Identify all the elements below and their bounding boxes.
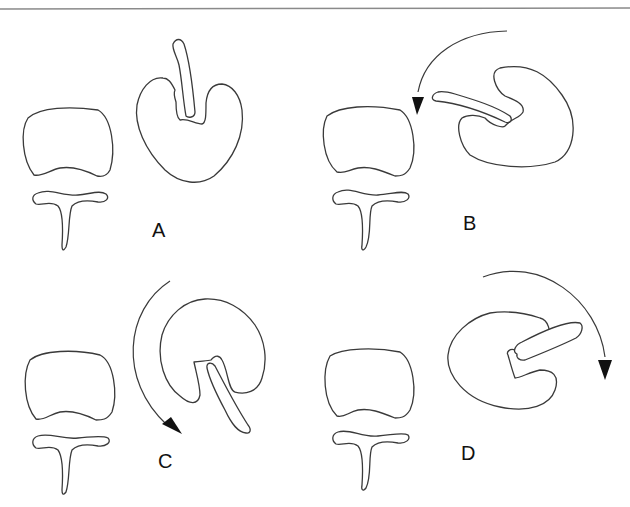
rotating-structure: [459, 67, 573, 167]
panel-label-c: C: [158, 450, 172, 472]
panel-label-b: B: [463, 212, 476, 234]
panel-b: B: [323, 31, 573, 250]
panel-a: A: [23, 40, 242, 250]
top-rule: [0, 8, 630, 9]
panel-c: C: [25, 281, 265, 494]
arrowhead-icon: [162, 417, 182, 434]
arrowhead-icon: [598, 360, 612, 380]
vertebral-body: [25, 351, 115, 420]
vertebral-body: [325, 349, 414, 418]
vertebral-body: [23, 108, 113, 176]
spinous-process: [33, 191, 108, 250]
spinous-process: [333, 431, 409, 490]
vertebral-body: [323, 107, 413, 176]
rotation-arrow: [418, 31, 507, 92]
rotating-structure: [448, 312, 557, 409]
spinous-process: [333, 190, 409, 250]
panel-label-a: A: [152, 219, 166, 241]
figure-canvas: A B C D: [0, 0, 630, 507]
panel-d: D: [325, 271, 612, 490]
spinous-process: [33, 435, 109, 494]
panel-label-d: D: [461, 442, 475, 464]
arrowhead-icon: [412, 97, 424, 115]
rotating-structure: [160, 299, 265, 403]
